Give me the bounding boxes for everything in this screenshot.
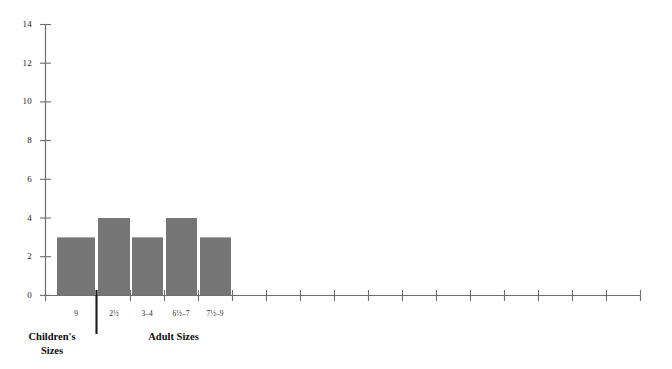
group-caption-adult-line1: Adult Sizes [116, 330, 231, 344]
y-tick-label-14: 14 [8, 20, 32, 29]
bar-group [57, 218, 231, 295]
x-tick-label-7half-9: 7½–9 [190, 310, 240, 318]
y-tick-label-12: 12 [8, 59, 32, 68]
bar-9 [57, 237, 95, 295]
y-tick-label-6: 6 [8, 175, 32, 184]
y-tick-label-0: 0 [8, 291, 32, 300]
y-tick-label-4: 4 [8, 214, 32, 223]
group-caption-childrens-line1: Children's [8, 330, 96, 344]
group-caption-childrens-sizes: Children's Sizes [8, 330, 96, 358]
bar-2half [98, 218, 130, 295]
group-caption-adult-sizes: Adult Sizes [116, 330, 231, 344]
y-tick-label-8: 8 [8, 136, 32, 145]
bar-6half-7 [166, 218, 197, 295]
group-caption-childrens-line2: Sizes [8, 344, 96, 358]
y-tick-label-2: 2 [8, 252, 32, 261]
y-tick-label-10: 10 [8, 97, 32, 106]
bar-chart: 14 12 10 8 6 4 2 0 9 2½ 3–4 6½–7 7½–9 Ch… [0, 0, 672, 369]
bar-7half-9 [200, 237, 231, 295]
bar-3-4 [132, 237, 163, 295]
